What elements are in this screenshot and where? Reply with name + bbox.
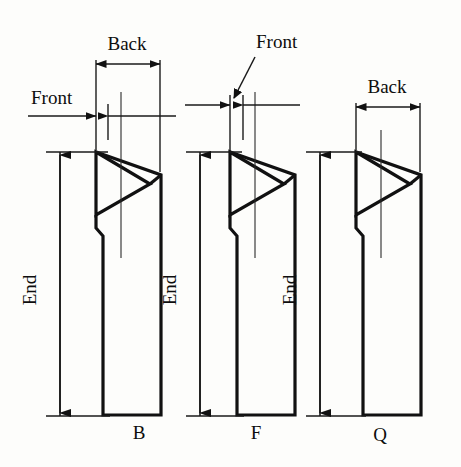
view-q-back-label: Back — [367, 76, 407, 97]
view-b-front-label: Front — [31, 87, 73, 108]
tool-orientation-svg: Back Front End B — [0, 0, 461, 467]
view-b-caption: B — [133, 422, 146, 443]
view-f-front-leader-line — [234, 57, 255, 98]
view-q-caption: Q — [373, 424, 387, 445]
view-q-end-label: End — [279, 274, 300, 305]
view-b: Back Front End B — [19, 33, 176, 443]
view-b-end-label: End — [19, 274, 40, 305]
view-f-front-label: Front — [256, 31, 298, 52]
view-f-end-label: End — [159, 274, 180, 305]
view-q-tool-outline — [356, 152, 421, 415]
view-q-end-dimension: End — [279, 152, 366, 416]
view-b-back-dimension: Back — [96, 33, 160, 172]
view-b-front-dimension: Front — [28, 87, 176, 140]
view-f-caption: F — [251, 422, 262, 443]
view-f-front-dimension: Front — [185, 31, 300, 152]
view-b-back-label: Back — [107, 33, 147, 54]
view-f: Front End F — [159, 31, 300, 443]
technical-drawing-figure: Back Front End B — [0, 0, 461, 467]
view-q: Back End Q — [279, 76, 421, 445]
view-b-tool-outline — [96, 152, 161, 415]
